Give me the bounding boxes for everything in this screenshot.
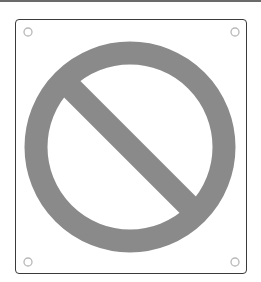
- mounting-hole-bottom-left: [24, 258, 32, 266]
- prohibition-icon: [0, 0, 261, 282]
- mounting-hole-bottom-right: [231, 258, 239, 266]
- prohibition-slash: [63, 80, 197, 214]
- mounting-hole-top-left: [24, 28, 32, 36]
- mounting-hole-top-right: [231, 28, 239, 36]
